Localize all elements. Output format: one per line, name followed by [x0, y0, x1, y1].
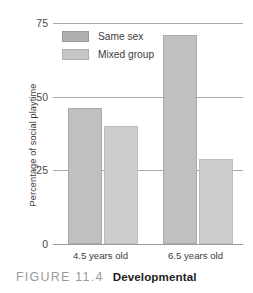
- bar-mixed-group-2: [199, 159, 233, 244]
- y-tick-label-75: 75: [36, 18, 48, 29]
- x-category-label-1: 4.5 years old: [73, 250, 128, 261]
- y-tick-label-25: 25: [36, 165, 48, 176]
- x-category-label-2: 6.5 years old: [168, 250, 223, 261]
- caption-figure-number: FIGURE 11.4: [16, 270, 104, 284]
- legend-swatch-same-sex: [62, 31, 89, 42]
- bar-same-sex-1: [68, 108, 102, 244]
- x-axis-category-labels: 4.5 years old6.5 years old: [53, 250, 243, 266]
- figure-container: Percentage of social playtime 0255075 Sa…: [0, 0, 253, 293]
- bar-mixed-group-1: [104, 126, 138, 244]
- legend-swatch-mixed-group: [62, 49, 89, 60]
- y-axis-title: Percentage of social playtime: [28, 50, 38, 240]
- bar-same-sex-2: [163, 35, 197, 244]
- legend-label-mixed-group: Mixed group: [98, 49, 154, 60]
- chart-legend: Same sexMixed group: [62, 29, 192, 65]
- legend-label-same-sex: Same sex: [98, 31, 143, 42]
- y-tick-label-50: 50: [36, 91, 48, 102]
- figure-caption: FIGURE 11.4 Developmental: [16, 270, 246, 284]
- caption-title: Developmental: [113, 270, 197, 283]
- legend-item-mixed-group: Mixed group: [62, 47, 192, 62]
- y-tick-label-0: 0: [42, 239, 48, 250]
- legend-item-same-sex: Same sex: [62, 29, 192, 44]
